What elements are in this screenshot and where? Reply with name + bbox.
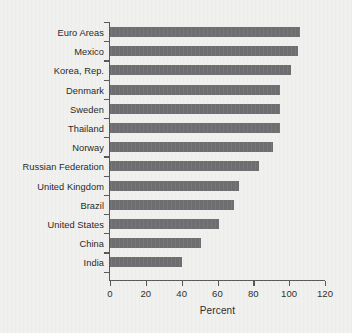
y-axis-tick <box>104 118 109 119</box>
y-axis-tick <box>104 156 109 157</box>
category-label: Denmark <box>0 86 104 96</box>
y-axis-tick <box>104 214 109 215</box>
bar <box>110 104 280 114</box>
y-axis-tick <box>104 60 109 61</box>
x-axis-tick-label: 120 <box>305 288 345 299</box>
y-axis-tick <box>104 272 109 273</box>
bar-chart-figure: Euro AreasMexicoKorea, Rep.DenmarkSweden… <box>0 0 352 333</box>
bar <box>110 161 259 171</box>
x-axis-tick <box>146 281 147 286</box>
bar <box>110 181 239 191</box>
bar <box>110 85 280 95</box>
bar <box>110 219 219 229</box>
x-axis-tick <box>325 281 326 286</box>
category-label: United States <box>0 220 104 230</box>
x-axis-tick-label: 60 <box>198 288 238 299</box>
category-label: Mexico <box>0 47 104 57</box>
category-label: Russian Federation <box>0 162 104 172</box>
category-label: Korea, Rep. <box>0 66 104 76</box>
x-axis-tick-label: 100 <box>269 288 309 299</box>
x-axis-tick-label: 0 <box>90 288 130 299</box>
y-axis-tick <box>104 195 109 196</box>
y-axis-tick <box>104 99 109 100</box>
x-axis-tick-label: 20 <box>126 288 166 299</box>
category-label: United Kingdom <box>0 182 104 192</box>
category-label: Sweden <box>0 105 104 115</box>
y-axis-tick <box>104 22 109 23</box>
bar <box>110 238 201 248</box>
category-label: Brazil <box>0 201 104 211</box>
category-label: China <box>0 239 104 249</box>
category-label: India <box>0 258 104 268</box>
x-axis-tick-label: 80 <box>233 288 273 299</box>
y-axis-tick <box>104 176 109 177</box>
x-axis-tick <box>289 281 290 286</box>
category-label: Thailand <box>0 124 104 134</box>
y-axis-tick <box>104 80 109 81</box>
bar <box>110 257 182 267</box>
x-axis-tick <box>253 281 254 286</box>
bar <box>110 200 234 210</box>
y-axis-tick <box>104 41 109 42</box>
bar <box>110 142 273 152</box>
x-axis-tick-label: 40 <box>162 288 202 299</box>
x-axis-tick <box>110 281 111 286</box>
x-axis-title: Percent <box>110 305 325 316</box>
y-axis-tick <box>104 252 109 253</box>
bar <box>110 123 280 133</box>
y-axis-tick <box>104 233 109 234</box>
category-label: Norway <box>0 143 104 153</box>
y-axis-tick <box>104 137 109 138</box>
x-axis-tick <box>182 281 183 286</box>
x-axis-tick <box>218 281 219 286</box>
bar <box>110 27 300 37</box>
bar <box>110 46 298 56</box>
category-label: Euro Areas <box>0 28 104 38</box>
bar <box>110 65 291 75</box>
